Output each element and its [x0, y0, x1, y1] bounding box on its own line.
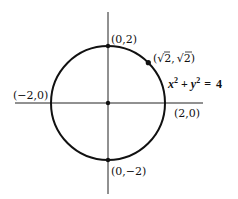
point-sqrt2: [146, 60, 151, 65]
equation-label: x2+y2=4: [167, 76, 222, 91]
point-top: [106, 44, 110, 48]
label-sqrt2: (√2,√2): [153, 52, 195, 65]
label-top: (0,2): [111, 33, 137, 46]
point-bottom: [106, 158, 110, 162]
label-left: (−2,0): [13, 89, 48, 102]
label-bottom: (0,−2): [111, 165, 146, 178]
point-origin: [106, 101, 110, 105]
label-right: (2,0): [174, 107, 200, 120]
circle-diagram: (0,2) (0,−2) (−2,0) (2,0) (√2,√2) x2+y2=…: [0, 0, 238, 199]
